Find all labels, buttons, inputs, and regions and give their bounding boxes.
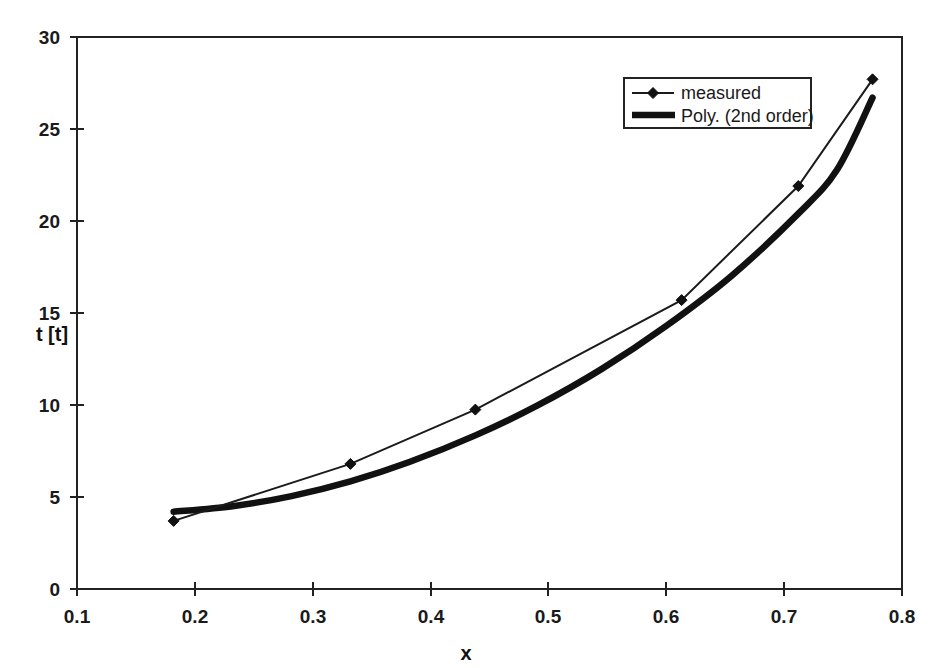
y-tick-label: 25 (39, 119, 61, 140)
x-tick-label: 0.7 (771, 606, 797, 627)
x-axis-title: x (460, 642, 471, 664)
y-tick-label: 30 (39, 27, 60, 48)
y-tick-label: 20 (39, 211, 60, 232)
chart-svg: 30 25 20 15 10 5 0 t [t] 0.1 0.2 0.3 0.4 (0, 0, 933, 668)
chart-legend: measured Poly. (2nd order) (624, 78, 814, 128)
x-tick-label: 0.6 (653, 606, 679, 627)
y-tick-label: 15 (39, 303, 61, 324)
y-tick-label: 5 (49, 487, 60, 508)
y-tick-label: 10 (39, 395, 60, 416)
legend-label-poly: Poly. (2nd order) (681, 106, 814, 126)
x-tick-label: 0.1 (64, 606, 91, 627)
x-tick-label: 0.3 (300, 606, 326, 627)
y-axis-title: t [t] (36, 323, 68, 345)
x-tick-label: 0.4 (418, 606, 445, 627)
chart-figure: 30 25 20 15 10 5 0 t [t] 0.1 0.2 0.3 0.4 (0, 0, 933, 668)
x-tick-label: 0.2 (182, 606, 208, 627)
y-tick-label: 0 (49, 579, 60, 600)
legend-label-measured: measured (681, 83, 761, 103)
x-tick-label: 0.5 (535, 606, 562, 627)
x-tick-label: 0.8 (889, 606, 915, 627)
